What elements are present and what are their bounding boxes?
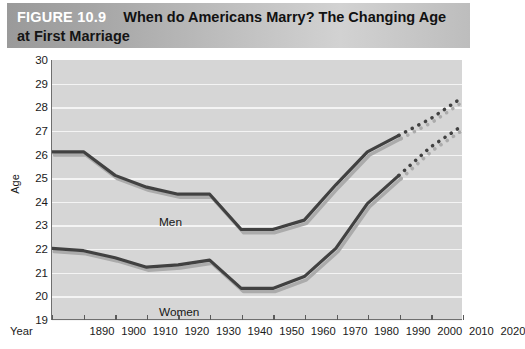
x-axis-tickmarks [52, 315, 462, 320]
x-axis-tick: 1910 [153, 325, 178, 337]
y-axis-tick-labels: 302928272625242322212019 [18, 60, 48, 320]
x-axis-tickmark [337, 315, 338, 320]
x-axis-tickmark [242, 315, 243, 320]
x-axis-title: Year [10, 325, 33, 337]
figure-title-line-1: FIGURE 10.9 When do Americans Marry? The… [17, 8, 464, 27]
figure-title-text: When do Americans Marry? The Changing Ag… [123, 9, 446, 25]
y-axis-tick: 26 [22, 149, 48, 161]
chart-plot-area: Men Women [51, 60, 462, 320]
y-axis-tick: 22 [22, 243, 48, 255]
figure-number: FIGURE 10.9 [17, 9, 106, 25]
series-line-solid-men [52, 135, 399, 229]
gridline [52, 320, 462, 321]
series-line-solid-women [52, 175, 399, 288]
x-axis-tickmark [463, 315, 464, 320]
x-axis-tickmark [210, 315, 211, 320]
y-axis-tick: 30 [22, 54, 48, 66]
x-axis-tick: 1920 [184, 325, 209, 337]
chart-series-svg [52, 60, 462, 319]
series-shadow-dotted-women [401, 129, 462, 178]
series-line-dotted-men [399, 98, 462, 136]
series-shadow-group [54, 101, 462, 292]
y-axis-title: Age [9, 159, 21, 209]
figure-title-line-2: at First Marriage [17, 27, 464, 46]
x-axis-tick: 1890 [90, 325, 115, 337]
x-axis-tickmark [400, 315, 401, 320]
x-axis-tickmark [147, 315, 148, 320]
x-axis-tick: 1960 [311, 325, 336, 337]
x-axis-tick-labels: 1890190019101920193019401950196019701980… [51, 325, 462, 341]
y-axis-tick: 20 [22, 290, 48, 302]
x-axis-tick: 1950 [279, 325, 304, 337]
y-axis-tick: 23 [22, 219, 48, 231]
x-axis-tickmark [305, 315, 306, 320]
x-axis-tickmark [368, 315, 369, 320]
x-axis-tickmark [273, 315, 274, 320]
x-axis-tick: 1990 [406, 325, 431, 337]
series-label-women: Women [159, 305, 199, 319]
x-axis-tick: 2010 [469, 325, 494, 337]
x-axis-tick: 2020 [501, 325, 525, 337]
x-axis-tick: 1970 [342, 325, 367, 337]
series-label-men: Men [159, 215, 182, 229]
x-axis-tick: 1930 [216, 325, 241, 337]
series-shadow-solid-men [54, 139, 401, 233]
x-axis-tick: 1980 [374, 325, 399, 337]
x-axis-tickmark [115, 315, 116, 320]
y-axis-tick: 21 [22, 267, 48, 279]
y-axis-tick: 25 [22, 172, 48, 184]
figure-title-banner: FIGURE 10.9 When do Americans Marry? The… [7, 3, 470, 48]
y-axis-tick: 24 [22, 196, 48, 208]
x-axis-tickmark [84, 315, 85, 320]
x-axis-tickmark [52, 315, 53, 320]
y-axis-tick: 29 [22, 78, 48, 90]
x-axis-tick: 1900 [121, 325, 146, 337]
x-axis-tickmark [431, 315, 432, 320]
y-axis-tick: 27 [22, 125, 48, 137]
x-axis-tick: 2000 [437, 325, 462, 337]
x-axis-tick: 1940 [248, 325, 273, 337]
y-axis-tick: 28 [22, 101, 48, 113]
